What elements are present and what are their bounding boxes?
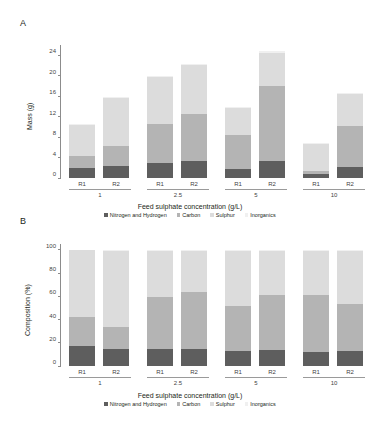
panel-b-replicate-label: R2 [346, 369, 354, 375]
panel-a-segment [303, 144, 329, 171]
panel-b-group-rule [69, 377, 131, 378]
legend-swatch-icon [177, 402, 181, 406]
panel-b-segment [147, 349, 173, 366]
panel-b-group-1: R1R21 [69, 244, 131, 366]
panel-b-segment [225, 351, 251, 366]
panel-b-group-rule [303, 377, 365, 378]
panel-a-segment [103, 98, 129, 147]
panel-b-legend-label: Carbon [182, 401, 200, 407]
panel-b-composition: B Composition (%) 020406080100 R1R21R1R2… [0, 212, 380, 425]
panel-a-group-rule [225, 189, 287, 190]
panel-b-y-axis-title: Composition (%) [24, 284, 31, 336]
panel-b-segment [69, 250, 95, 316]
panel-a-segment [181, 65, 207, 114]
panel-b-segment [69, 317, 95, 346]
panel-a-stacked-bar[interactable] [103, 97, 129, 178]
panel-b-legend-label: Sulphur [216, 401, 235, 407]
panel-b-bar-slot: R1 [225, 244, 251, 366]
panel-a-replicate-label: R1 [78, 181, 86, 187]
panel-a-group-2.5: R1R22.5 [147, 45, 209, 178]
panel-b-group-2.5: R1R22.5 [147, 244, 209, 366]
panel-b-bar-slot: R2 [337, 244, 363, 366]
panel-b-y-tick-mark [58, 249, 61, 250]
panel-a-bar-slot: R1 [225, 45, 251, 178]
panel-b-group-label: 2.5 [174, 380, 182, 386]
panel-b-bar-slot: R2 [103, 244, 129, 366]
panel-a-group-label: 10 [331, 192, 338, 198]
panel-a-bar-slot: R2 [259, 45, 285, 178]
panel-b-legend-label: Inorganics [250, 401, 275, 407]
panel-a-stacked-bar[interactable] [337, 93, 363, 178]
panel-a-segment [303, 174, 329, 178]
panel-b-stacked-bar[interactable] [225, 250, 251, 366]
panel-a-group-10: R1R210 [303, 45, 365, 178]
panel-b-stacked-bar[interactable] [259, 250, 285, 366]
panel-a-replicate-label: R2 [268, 181, 276, 187]
panel-a-y-tick-mark [58, 137, 61, 138]
panel-b-y-tick-mark [58, 366, 61, 367]
panel-b-group-5: R1R25 [225, 244, 287, 366]
legend-swatch-icon [245, 402, 249, 406]
panel-a-segment [147, 77, 173, 124]
panel-a-group-label: 1 [98, 192, 101, 198]
panel-a-stacked-bar[interactable] [259, 51, 285, 178]
panel-a-group-rule [69, 189, 131, 190]
panel-b-bar-slot: R1 [147, 244, 173, 366]
panel-a-segment [225, 135, 251, 169]
panel-b-replicate-label: R1 [312, 369, 320, 375]
legend-swatch-icon [104, 402, 108, 406]
panel-a-segment [69, 156, 95, 169]
panel-b-stacked-bar[interactable] [303, 250, 329, 366]
panel-b-segment [337, 351, 363, 366]
panel-b-segment [181, 251, 207, 292]
panel-b-group-rule [225, 377, 287, 378]
panel-b-legend: Nitrogen and HydrogenCarbonSulphurInorga… [0, 401, 380, 407]
panel-b-segment [259, 251, 285, 295]
panel-b-y-tick-mark [58, 342, 61, 343]
panel-b-y-tick-mark [58, 273, 61, 274]
panel-b-y-tick-mark [58, 319, 61, 320]
panel-b-legend-item[interactable]: Sulphur [210, 401, 234, 407]
panel-b-y-tick-mark [58, 296, 61, 297]
panel-a-segment [147, 163, 173, 178]
panel-b-segment [337, 304, 363, 350]
panel-a-segment [225, 108, 251, 135]
panel-a-bar-slot: R2 [103, 45, 129, 178]
panel-b-stacked-bar[interactable] [103, 250, 129, 366]
panel-a-segment [103, 146, 129, 165]
panel-b-segment [103, 327, 129, 348]
panel-b-group-rule [147, 377, 209, 378]
panel-a-segment [69, 125, 95, 155]
panel-b-stacked-bar[interactable] [337, 250, 363, 366]
panel-b-segment [181, 292, 207, 348]
panel-a-segment [147, 124, 173, 163]
panel-b-legend-item[interactable]: Carbon [177, 401, 201, 407]
panel-b-group-label: 1 [98, 380, 101, 386]
panel-a-group-1: R1R21 [69, 45, 131, 178]
panel-a-stacked-bar[interactable] [181, 64, 207, 178]
panel-a-stacked-bar[interactable] [69, 124, 95, 178]
panel-a-segment [181, 114, 207, 161]
panel-b-stacked-bar[interactable] [181, 250, 207, 366]
panel-a-group-label: 5 [254, 192, 257, 198]
panel-b-segment [181, 349, 207, 366]
panel-b-legend-item[interactable]: Nitrogen and Hydrogen [104, 401, 166, 407]
panel-b-stacked-bar[interactable] [69, 250, 95, 366]
panel-b-legend-item[interactable]: Inorganics [245, 401, 276, 407]
panel-b-bar-slot: R1 [69, 244, 95, 366]
panel-a-stacked-bar[interactable] [147, 76, 173, 178]
panel-a-stacked-bar[interactable] [303, 143, 329, 178]
panel-a-segment [259, 53, 285, 87]
panel-a-plot-area: 04812162024 R1R21R1R22.5R1R25R1R210 [60, 45, 366, 178]
panel-a-y-tick-mark [58, 178, 61, 179]
panel-b-replicate-label: R1 [78, 369, 86, 375]
panel-a-letter: A [20, 18, 26, 28]
panel-a-stacked-bar[interactable] [225, 107, 251, 178]
panel-a-bar-slot: R1 [69, 45, 95, 178]
panel-a-segment [69, 168, 95, 178]
panel-a-segment [181, 161, 207, 178]
panel-a-x-axis-title: Feed sulphate concentration (g/L) [0, 203, 380, 210]
panel-b-stacked-bar[interactable] [147, 250, 173, 366]
panel-a-y-tick-mark [58, 116, 61, 117]
panel-b-segment [103, 349, 129, 366]
